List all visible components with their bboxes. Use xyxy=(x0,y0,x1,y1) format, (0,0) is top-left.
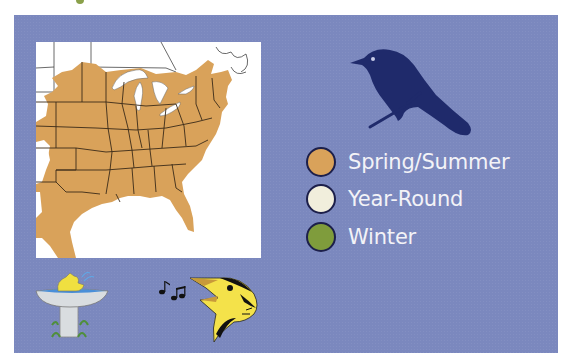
legend-item-year-round: Year-Round xyxy=(306,181,509,219)
leaf-fragment-icon xyxy=(76,0,84,4)
music-notes-icon xyxy=(158,277,188,307)
legend-label: Winter xyxy=(348,225,416,249)
species-info-panel: Spring/Summer Year-Round Winter xyxy=(14,15,558,353)
legend-item-spring-summer: Spring/Summer xyxy=(306,143,509,181)
range-map xyxy=(36,42,261,258)
range-map-graphic xyxy=(36,42,261,258)
legend-label: Spring/Summer xyxy=(348,150,509,174)
year-round-swatch-icon xyxy=(306,184,336,214)
legend-label: Year-Round xyxy=(348,187,463,211)
birdbath-icon xyxy=(32,267,112,351)
perched-bird-silhouette-icon xyxy=(344,35,474,154)
winter-swatch-icon xyxy=(306,222,336,252)
singing-bird-head-icon xyxy=(190,272,262,348)
season-legend: Spring/Summer Year-Round Winter xyxy=(306,143,509,256)
spring-summer-swatch-icon xyxy=(306,147,336,177)
legend-item-winter: Winter xyxy=(306,218,509,256)
